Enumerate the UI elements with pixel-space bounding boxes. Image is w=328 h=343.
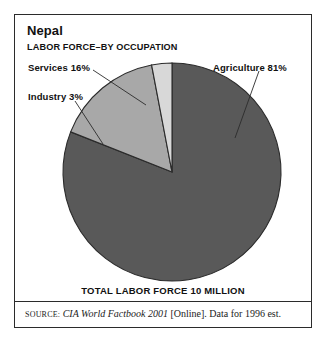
footer-divider: [15, 301, 311, 302]
source-suffix: [Online]. Data for 1996 est.: [170, 308, 281, 319]
total-labor-force-caption: TOTAL LABOR FORCE 10 MILLION: [15, 285, 311, 296]
pie-label-industry: Industry 3%: [28, 91, 83, 102]
pie-label-agriculture: Agriculture 81%: [213, 62, 287, 73]
source-prefix: SOURCE:: [25, 310, 60, 319]
source-publication: CIA World Factbook 2001: [63, 308, 168, 319]
source-note: SOURCE: CIA World Factbook 2001 [Online]…: [25, 307, 303, 322]
chart-figure: Nepal LABOR FORCE–BY OCCUPATION Services…: [14, 14, 312, 328]
pie-label-services: Services 16%: [28, 62, 90, 73]
